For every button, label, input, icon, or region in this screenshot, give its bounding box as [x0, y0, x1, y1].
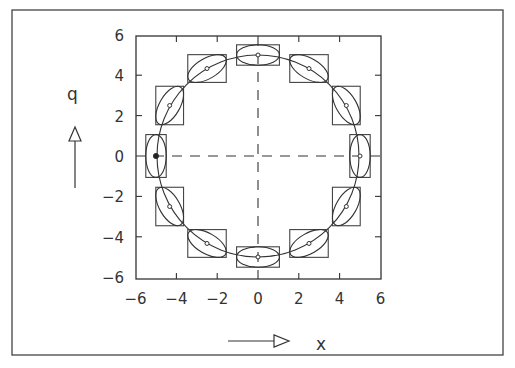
point-marker: [205, 241, 209, 245]
uncertainty-ellipse-group: [327, 82, 366, 129]
x-tick-label: 6: [376, 290, 386, 308]
x-tick-label: −4: [165, 290, 187, 308]
point-marker: [307, 241, 311, 245]
y-tick-label: 2: [114, 108, 124, 126]
uncertainty-ellipse-group: [150, 183, 189, 230]
right-arrow-icon: [274, 335, 289, 347]
y-tick-label: 4: [114, 67, 124, 85]
uncertainty-ellipse-group: [285, 224, 332, 263]
y-tick-label: 0: [114, 148, 124, 166]
up-arrow-icon: [69, 127, 81, 141]
y-axis-label: q: [67, 84, 78, 104]
point-marker: [256, 53, 260, 57]
uncertainty-ellipse-group: [327, 183, 366, 230]
uncertainty-ellipse-group: [237, 247, 280, 267]
x-tick-label: 2: [294, 290, 304, 308]
y-tick-label: −4: [102, 229, 124, 247]
y-tick-label: 6: [114, 27, 124, 45]
uncertainty-ellipse-group: [285, 49, 332, 88]
x-tick-label: 4: [335, 290, 345, 308]
point-marker: [205, 67, 209, 71]
point-marker: [168, 104, 172, 108]
uncertainty-ellipse-group: [183, 224, 230, 263]
circular-trajectory: [157, 55, 359, 257]
x-tick-label: −6: [125, 290, 147, 308]
x-axis-label: x: [316, 334, 326, 354]
start-point-marker: [153, 153, 158, 158]
point-marker: [358, 154, 362, 158]
y-tick-label: −2: [102, 188, 124, 206]
x-tick-label: −2: [206, 290, 228, 308]
point-marker: [307, 67, 311, 71]
point-marker: [168, 205, 172, 209]
uncertainty-ellipse-group: [183, 49, 230, 88]
x-tick-label: 0: [253, 290, 263, 308]
axis-tick-labels: −6−4−202466420−2−4−6: [102, 27, 385, 308]
point-marker: [344, 104, 348, 108]
phase-space-diagram: −6−4−202466420−2−4−6 q x: [0, 0, 515, 368]
point-marker: [256, 255, 260, 259]
point-marker: [344, 205, 348, 209]
y-tick-label: −6: [102, 269, 124, 287]
uncertainty-ellipse-group: [150, 82, 189, 129]
